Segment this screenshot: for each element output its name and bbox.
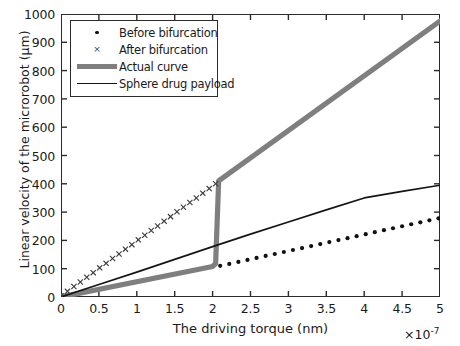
series-sphere-drug-payload <box>61 185 440 297</box>
x-tick-label: 0.5 <box>89 301 108 316</box>
y-axis-title: Linear velocity of the microrobot (μm) <box>17 20 32 280</box>
x-tick-label: 1 <box>133 301 141 316</box>
legend-key: × <box>75 41 119 58</box>
y-tick-label: 700 <box>32 91 55 106</box>
dot-marker <box>382 228 386 232</box>
legend-label: Actual curve <box>119 60 188 74</box>
x-axis-title: The driving torque (nm) <box>61 321 440 336</box>
legend-thin-line-icon <box>77 83 117 85</box>
x-tick-label: 2 <box>209 301 217 316</box>
dot-marker <box>364 232 368 236</box>
y-tick-label: 800 <box>32 63 55 78</box>
y-tick-label: 300 <box>32 205 55 220</box>
legend-label: Sphere drug payload <box>119 77 234 91</box>
legend-key <box>75 75 119 92</box>
dot-marker <box>273 252 277 256</box>
legend-thick-line-icon <box>77 64 117 69</box>
legend-x-icon: × <box>93 45 101 54</box>
dot-marker <box>291 248 295 252</box>
dot-marker <box>409 222 413 226</box>
x-tick-label: 5 <box>436 301 444 316</box>
x-tick-label: 4 <box>360 301 368 316</box>
y-tick-label: 400 <box>32 176 55 191</box>
x-tick-label: 3 <box>285 301 293 316</box>
dot-marker <box>391 226 395 230</box>
dot-marker <box>227 262 231 266</box>
legend-item: Actual curve <box>75 58 213 75</box>
x-tick-label: 0 <box>57 301 65 316</box>
dot-marker <box>327 240 331 244</box>
exponent-power: -7 <box>430 326 439 336</box>
legend-item: ×After bifurcation <box>75 41 213 58</box>
y-tick-label: 900 <box>32 35 55 50</box>
dot-marker <box>345 236 349 240</box>
dot-marker <box>355 234 359 238</box>
x-tick-label: 2.5 <box>241 301 260 316</box>
x-axis-tick-labels: 00.511.522.533.544.55 <box>0 301 460 321</box>
dot-marker <box>218 264 222 268</box>
dot-marker <box>236 260 240 264</box>
x-tick-label: 4.5 <box>392 301 411 316</box>
dot-marker <box>254 256 258 260</box>
dot-marker <box>427 218 431 222</box>
legend-label: Before bifurcation <box>119 26 217 40</box>
legend-item: Sphere drug payload <box>75 75 213 92</box>
dot-marker <box>336 238 340 242</box>
legend-dot-icon <box>95 31 98 34</box>
dot-marker <box>245 258 249 262</box>
legend-item: Before bifurcation <box>75 24 213 41</box>
dot-marker <box>309 244 313 248</box>
y-tick-label: 500 <box>32 148 55 163</box>
y-tick-label: 200 <box>32 233 55 248</box>
dot-marker <box>264 254 268 258</box>
dot-marker <box>400 224 404 228</box>
dot-marker <box>282 250 286 254</box>
caption-remnant <box>0 338 460 346</box>
series-before-bifurcation <box>218 216 440 268</box>
legend-key <box>75 58 119 75</box>
dot-marker <box>373 230 377 234</box>
dot-marker <box>436 216 440 220</box>
y-tick-label: 100 <box>32 261 55 276</box>
dot-marker <box>318 242 322 246</box>
legend-key <box>75 24 119 41</box>
x-tick-label: 1.5 <box>165 301 184 316</box>
x-tick-label: 3.5 <box>317 301 336 316</box>
dot-marker <box>418 220 422 224</box>
figure-chart-linear-velocity: 01002003004005006007008009001000 Linear … <box>0 0 460 346</box>
legend: Before bifurcation×After bifurcationActu… <box>70 20 218 97</box>
y-tick-label: 600 <box>32 120 55 135</box>
legend-label: After bifurcation <box>119 43 208 57</box>
dot-marker <box>300 246 304 250</box>
